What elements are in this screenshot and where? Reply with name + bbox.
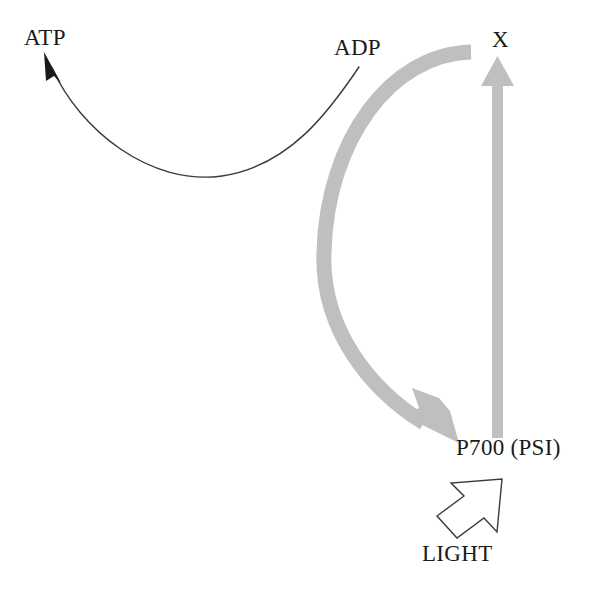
edge-p700-to-x-thick-gray-straight-arrow <box>481 56 514 438</box>
node-label-p700: P700 (PSI) <box>456 436 561 459</box>
straight-arrow-shaft <box>492 84 503 438</box>
thin-curve-shaft <box>52 67 359 177</box>
thin-curve-arrow-head <box>44 52 61 83</box>
node-label-adp: ADP <box>334 36 381 59</box>
photosynthesis-cyclic-flow-diagram: ATP ADP X P700 (PSI) LIGHT <box>0 0 592 597</box>
curved-arrow-shaft <box>324 52 471 423</box>
edge-x-to-p700-thick-gray-curved-arrow <box>324 52 471 443</box>
node-label-x: X <box>492 28 509 51</box>
curved-arrow-head <box>404 388 459 443</box>
edge-adp-to-atp-thin-black-curved-arrow <box>44 52 359 177</box>
straight-arrow-head <box>481 56 514 86</box>
diagram-canvas <box>0 0 592 597</box>
node-label-light: LIGHT <box>422 542 492 565</box>
node-label-atp: ATP <box>24 26 66 49</box>
edge-light-to-p700-hollow-outline-arrow <box>437 479 502 538</box>
hollow-block-arrow <box>437 479 502 538</box>
